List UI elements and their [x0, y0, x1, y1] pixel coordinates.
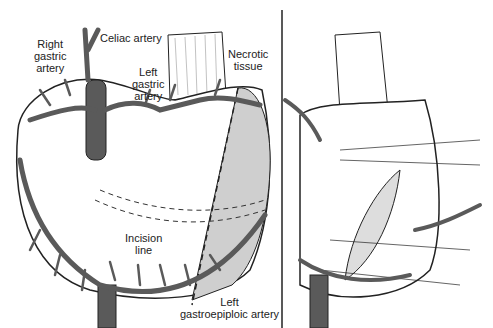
- label-right-gastric-artery: Right gastric artery: [34, 38, 66, 74]
- label-left-gastroepiploic-artery: Left gastroepiploic artery: [180, 296, 279, 320]
- label-necrotic-tissue: Necrotic tissue: [228, 48, 268, 72]
- label-left-gastric-artery: Left gastric artery: [132, 66, 164, 102]
- label-celiac-artery: Celiac artery: [100, 32, 162, 44]
- stomach-right: [300, 100, 439, 297]
- label-incision-line: Incision line: [125, 232, 162, 256]
- esophagus-right: [335, 32, 388, 112]
- celiac-trunk: [86, 80, 106, 160]
